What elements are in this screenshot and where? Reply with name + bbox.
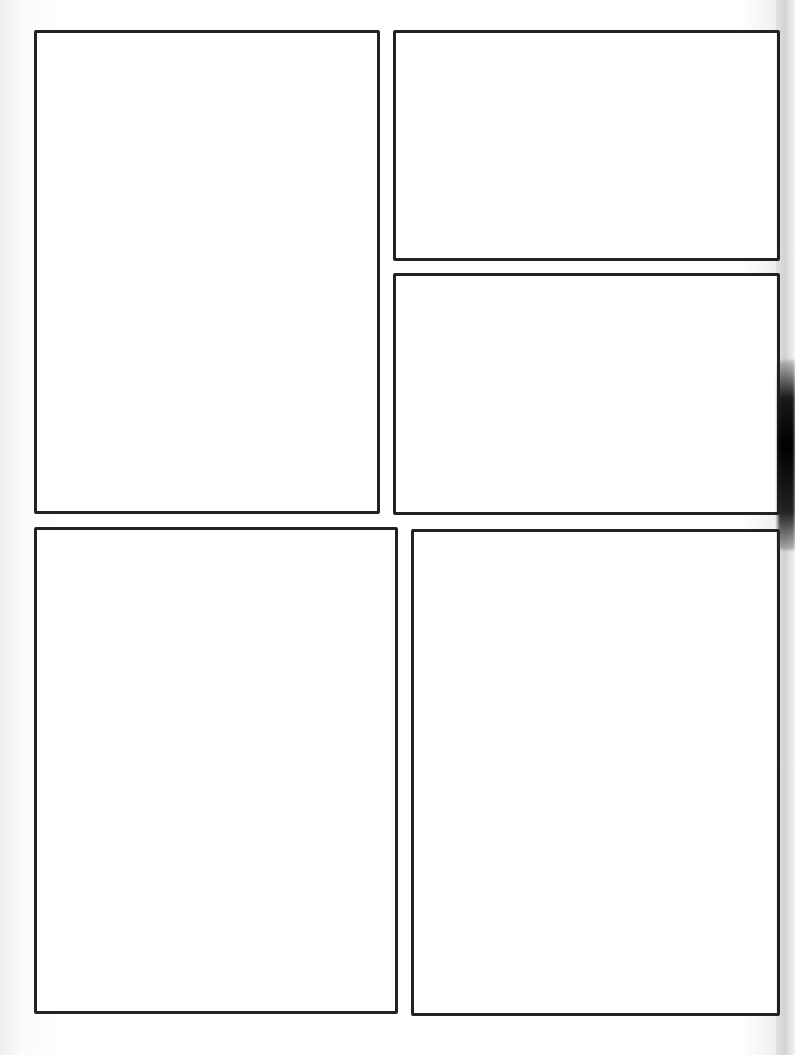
panel-2 — [393, 30, 780, 261]
binding-dark-edge — [778, 360, 795, 550]
panel-5 — [411, 529, 780, 1016]
panel-1 — [34, 30, 380, 514]
comic-page — [0, 0, 795, 1055]
panel-3 — [393, 273, 780, 515]
panel-4 — [34, 527, 398, 1014]
